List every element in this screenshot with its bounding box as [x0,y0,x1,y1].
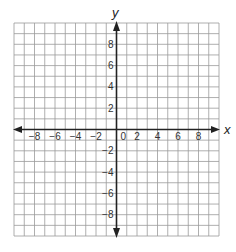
x-tick-label: 4 [155,131,161,142]
x-tick-label: −6 [49,131,61,142]
y-axis-arrow-up-icon [113,21,120,31]
x-tick-label: −4 [70,131,82,142]
y-tick-label: 6 [108,60,114,71]
axes [13,21,220,238]
x-tick-label: 8 [196,131,202,142]
y-axis-arrow-down-icon [113,228,120,238]
y-tick-label: 2 [108,103,114,114]
coordinate-plane: −8−6−4−202468−8−6−4−22468 x y [0,0,236,252]
x-tick-label: −8 [29,131,41,142]
y-tick-label: −6 [102,188,114,199]
y-tick-label: −8 [102,209,114,220]
x-tick-label: 0 [121,131,127,142]
x-tick-label: 2 [134,131,140,142]
x-tick-label: 6 [175,131,181,142]
x-tick-label: −2 [90,131,102,142]
x-axis-label: x [223,122,231,137]
y-tick-label: 4 [108,81,114,92]
y-tick-label: −2 [102,145,114,156]
y-tick-label: −4 [102,167,114,178]
y-axis-label: y [111,5,120,20]
y-tick-label: 8 [108,39,114,50]
